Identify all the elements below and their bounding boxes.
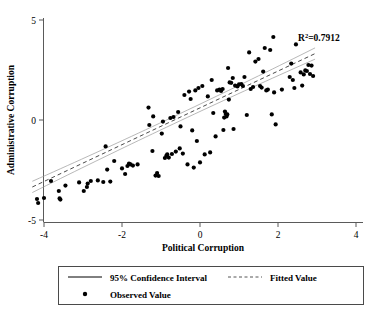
data-point bbox=[185, 162, 189, 166]
data-point bbox=[271, 35, 275, 39]
data-point bbox=[268, 48, 272, 52]
data-point bbox=[231, 76, 235, 80]
x-tick-label: 4 bbox=[354, 230, 359, 240]
data-point bbox=[120, 166, 124, 170]
data-point bbox=[42, 196, 46, 200]
data-point bbox=[247, 50, 251, 54]
legend-label-confidence-interval: 95% Confidence Interval bbox=[110, 273, 207, 283]
data-point bbox=[241, 84, 245, 88]
data-point bbox=[96, 178, 100, 182]
data-point bbox=[289, 62, 293, 66]
data-point bbox=[266, 88, 270, 92]
data-point bbox=[274, 122, 278, 126]
data-point bbox=[174, 150, 178, 154]
data-point bbox=[311, 74, 315, 78]
data-point bbox=[160, 132, 164, 136]
data-point bbox=[167, 156, 171, 160]
data-point bbox=[227, 98, 231, 102]
data-point bbox=[226, 66, 230, 70]
legend-dot-swatch bbox=[83, 292, 87, 296]
scatter-plot-figure: 5 0 -5 -4 -2 0 2 4 Political Corruption … bbox=[0, 0, 374, 310]
data-point bbox=[89, 179, 93, 183]
data-point bbox=[229, 81, 233, 85]
x-tick-label: 0 bbox=[198, 230, 203, 240]
confidence-interval-edge bbox=[32, 59, 315, 192]
data-point bbox=[104, 144, 108, 148]
data-point bbox=[187, 90, 191, 94]
chart-canvas: 5 0 -5 -4 -2 0 2 4 Political Corruption … bbox=[0, 0, 374, 310]
data-point bbox=[309, 64, 313, 68]
data-point bbox=[146, 106, 150, 110]
y-axis-ticks: 5 0 -5 bbox=[28, 16, 43, 226]
data-point bbox=[196, 86, 200, 90]
data-point bbox=[58, 198, 62, 202]
data-point bbox=[150, 149, 154, 153]
data-point bbox=[260, 86, 264, 90]
data-point bbox=[251, 85, 255, 89]
data-point bbox=[123, 172, 127, 176]
data-point bbox=[214, 134, 218, 138]
data-point bbox=[101, 180, 105, 184]
data-point bbox=[151, 114, 155, 118]
data-point bbox=[178, 146, 182, 150]
data-point bbox=[221, 87, 225, 91]
data-point bbox=[225, 112, 229, 116]
data-point bbox=[210, 78, 214, 82]
data-point bbox=[57, 189, 61, 193]
y-axis-title: Administrative Corruption bbox=[6, 64, 16, 175]
x-axis-ticks: -4 -2 0 2 4 bbox=[40, 223, 359, 241]
data-point bbox=[176, 110, 180, 114]
data-point bbox=[49, 179, 53, 183]
data-point bbox=[231, 127, 235, 131]
data-point bbox=[36, 201, 40, 205]
y-tick-label: 0 bbox=[31, 116, 36, 126]
x-tick-label: -4 bbox=[40, 230, 48, 240]
data-point bbox=[170, 152, 174, 156]
axes-group bbox=[44, 18, 364, 223]
data-point bbox=[206, 94, 210, 98]
data-point bbox=[195, 139, 199, 143]
data-point bbox=[302, 72, 306, 76]
data-point bbox=[203, 152, 207, 156]
data-point bbox=[105, 168, 109, 172]
data-point bbox=[161, 120, 165, 124]
data-point bbox=[198, 160, 202, 164]
data-point bbox=[178, 124, 182, 128]
data-point bbox=[136, 162, 140, 166]
data-point bbox=[147, 123, 151, 127]
data-point bbox=[245, 113, 249, 117]
data-point bbox=[272, 90, 276, 94]
data-point bbox=[288, 75, 292, 79]
svg-text:R2=0.7912: R2=0.7912 bbox=[298, 32, 340, 44]
data-point bbox=[270, 112, 274, 116]
data-point bbox=[189, 97, 193, 101]
data-point bbox=[35, 197, 39, 201]
data-point bbox=[300, 84, 304, 88]
legend-label-observed-value: Observed Value bbox=[110, 290, 171, 300]
data-point bbox=[157, 174, 161, 178]
data-point bbox=[131, 164, 135, 168]
data-point bbox=[291, 78, 295, 82]
data-point bbox=[263, 46, 267, 50]
x-tick-label: 2 bbox=[276, 230, 281, 240]
chart-legend: 95% Confidence Interval Fitted Value Obs… bbox=[59, 267, 364, 305]
r-squared-suffix: =0.7912 bbox=[308, 33, 340, 43]
r-squared-annotation: R2=0.7912 bbox=[298, 32, 340, 44]
data-point bbox=[82, 189, 86, 193]
y-tick-label: 5 bbox=[31, 16, 36, 26]
data-point bbox=[211, 111, 215, 115]
data-point bbox=[181, 152, 185, 156]
data-point bbox=[305, 69, 309, 73]
data-point bbox=[63, 184, 67, 188]
data-point bbox=[108, 180, 112, 184]
x-axis-title: Political Corruption bbox=[162, 243, 245, 253]
data-point bbox=[256, 57, 260, 61]
data-point bbox=[182, 93, 186, 97]
data-point bbox=[77, 180, 81, 184]
data-point bbox=[242, 75, 246, 79]
y-tick-label: -5 bbox=[28, 216, 36, 226]
legend-label-fitted-value: Fitted Value bbox=[270, 273, 317, 283]
data-point bbox=[200, 84, 204, 88]
data-point bbox=[280, 88, 284, 92]
fitted-value-line bbox=[32, 54, 315, 187]
